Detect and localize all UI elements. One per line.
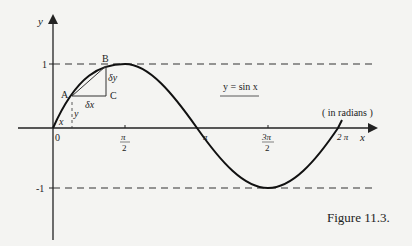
small-x-label: x [58,116,64,127]
point-b-label: B [102,53,109,64]
y-axis-label: y [37,15,43,27]
figure-caption: Figure 11.3. [327,210,390,225]
x-tick-3pi-half-num: 3π [261,132,272,142]
y-tick-label-minus1: -1 [36,183,44,194]
delta-x-label: δx [85,99,95,110]
x-axis-label: x [359,131,365,143]
origin-label: 0 [55,132,60,143]
x-tick-pi: π [203,132,208,142]
small-y-label: y [73,108,79,119]
x-tick-pi-half-den: 2 [122,143,127,153]
y-axis-arrow-icon [48,14,58,24]
x-tick-pi-half-num: π [121,132,126,142]
curve-label: y = sin x [223,81,258,92]
point-a-label: A [61,89,69,100]
x-tick-3pi-half-den: 2 [265,143,270,153]
sine-curve [53,64,342,188]
x-axis-arrow-icon [368,123,378,133]
delta-y-label: δy [108,72,118,83]
x-tick-2pi: 2 π [337,132,349,142]
y-tick-label-1: 1 [42,59,47,70]
point-c-label: C [110,90,117,101]
unit-note: ( in radians ) [322,107,373,119]
chord-ab [72,66,106,96]
sine-diagram: y x 0 1 -1 π 2 π 3π 2 2 π A B C δx δy x … [0,0,412,246]
